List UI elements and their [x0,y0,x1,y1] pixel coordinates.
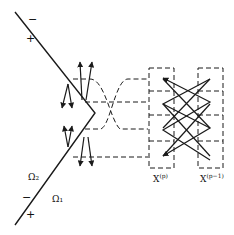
dashed-connectors [73,79,148,157]
diagram-figure: − + Ω₂ − Ω₁ + X(p) X(p−1) [0,0,234,235]
sign-upper-plus: + [26,33,35,44]
wedge-arrows-lower [64,126,92,166]
region-omega-2: Ω₂ [28,173,39,182]
sign-upper-minus: − [28,14,37,25]
column-label-x-p-minus-1: X(p−1) [200,173,224,184]
column-label-x-p-minus-1-sup: (p−1) [206,172,223,179]
column-label-x-p: X(p) [153,173,168,184]
zigzag-arrows [163,78,210,160]
sign-lower-plus: + [26,209,35,220]
column-x-p [149,68,174,168]
wedge-arrows-upper [62,62,92,108]
sign-lower-minus: − [22,192,31,203]
column-label-x-p-sup: (p) [159,172,168,179]
region-omega-1: Ω₁ [52,195,63,204]
